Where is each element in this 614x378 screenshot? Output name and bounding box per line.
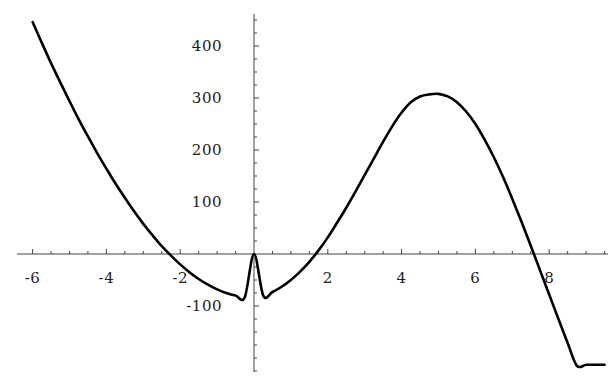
cubic-plot-figure: -6-4-22468400300200100-100 xyxy=(0,0,614,378)
y-tick-label: -100 xyxy=(186,297,222,315)
plot-canvas xyxy=(0,0,614,378)
x-tick-label: -4 xyxy=(99,269,115,287)
x-tick-label: -2 xyxy=(172,269,188,287)
x-tick-label: -6 xyxy=(25,269,41,287)
y-tick-label: 300 xyxy=(192,89,222,107)
x-tick-label: 4 xyxy=(397,269,407,287)
y-tick-label: 200 xyxy=(192,141,222,159)
y-tick-label: 100 xyxy=(192,193,222,211)
axis-layer xyxy=(17,14,608,372)
x-tick-label: 6 xyxy=(470,269,480,287)
y-tick-label: 400 xyxy=(192,37,222,55)
curve-layer xyxy=(33,22,605,367)
x-tick-label: 8 xyxy=(544,269,554,287)
cubic-curve xyxy=(33,22,605,367)
x-tick-label: 2 xyxy=(323,269,333,287)
